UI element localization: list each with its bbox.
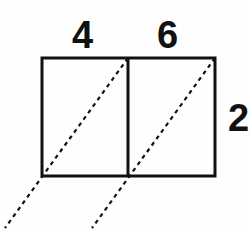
figure-canvas [0, 0, 250, 230]
dimension-label-top-right: 6 [157, 16, 178, 54]
dashed-diagonal-group [5, 58, 215, 228]
dimension-label-top-left: 4 [72, 16, 93, 54]
dimension-label-right-height: 2 [228, 99, 249, 137]
geometry-figure: 4 6 2 [0, 0, 250, 230]
dashed-diagonal-right [92, 58, 215, 228]
